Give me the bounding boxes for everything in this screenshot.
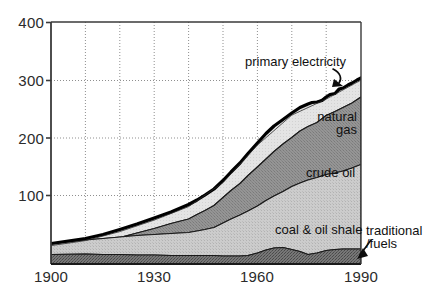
y-tick-200: 200 xyxy=(0,130,44,147)
series-label-crude-oil: crude oil xyxy=(306,166,355,179)
y-tick-400: 400 xyxy=(0,14,44,31)
x-tick-1960: 1960 xyxy=(231,268,283,285)
series-label-coal-oil-shale: coal & oil shale xyxy=(275,223,362,236)
series-label-primary-electricity: primary electricity xyxy=(245,55,346,68)
series-label-natural-gas-line2: gas xyxy=(295,123,357,136)
x-tick-1990: 1990 xyxy=(335,268,387,285)
x-tick-1930: 1930 xyxy=(128,268,180,285)
series-label-traditional-fuels-line2: /fuels xyxy=(366,237,397,250)
y-tick-100: 100 xyxy=(0,187,44,204)
chart-canvas xyxy=(0,0,426,287)
y-tick-300: 300 xyxy=(0,72,44,89)
x-tick-1900: 1900 xyxy=(25,268,77,285)
energy-consumption-chart: 400 300 200 100 1900 1930 1960 1990 prim… xyxy=(0,0,426,287)
